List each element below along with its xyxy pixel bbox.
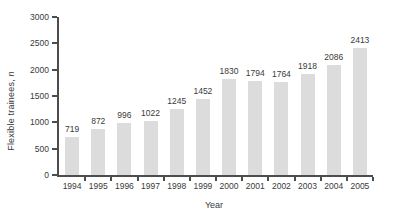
y-axis-tick-label: 500 bbox=[15, 144, 49, 154]
bar bbox=[91, 129, 105, 175]
bar bbox=[65, 137, 79, 175]
y-axis-tick bbox=[52, 69, 57, 71]
y-axis-title-text: Flexible trainees, bbox=[6, 76, 16, 150]
y-axis-tick-label: 1500 bbox=[15, 91, 49, 101]
y-axis-tick bbox=[52, 121, 57, 123]
bar bbox=[274, 82, 288, 175]
y-axis-tick-label: 1000 bbox=[15, 117, 49, 127]
bar-value-label: 1452 bbox=[183, 86, 223, 96]
y-axis-tick bbox=[52, 148, 57, 150]
bar-chart-figure: Flexible trainees, n 0500100015002000250… bbox=[0, 0, 394, 218]
bar-value-label: 1245 bbox=[157, 96, 197, 106]
y-axis-tick bbox=[52, 174, 57, 176]
y-axis-tick bbox=[52, 42, 57, 44]
bar bbox=[196, 99, 210, 175]
x-axis-tick bbox=[84, 177, 86, 181]
plot-area: 0500100015002000250030007191994872199599… bbox=[57, 17, 373, 177]
bar bbox=[144, 121, 158, 175]
bar bbox=[353, 48, 367, 175]
x-axis-tick bbox=[267, 177, 269, 181]
bar bbox=[222, 79, 236, 175]
x-axis-tick bbox=[294, 177, 296, 181]
bar bbox=[327, 65, 341, 175]
x-axis-tick bbox=[163, 177, 165, 181]
bar bbox=[248, 81, 262, 175]
x-axis-tick bbox=[110, 177, 112, 181]
y-axis-tick bbox=[52, 95, 57, 97]
x-axis-tick bbox=[320, 177, 322, 181]
x-axis-tick bbox=[189, 177, 191, 181]
bar bbox=[117, 123, 131, 175]
y-axis-tick-label: 2500 bbox=[15, 38, 49, 48]
y-axis-tick-label: 2000 bbox=[15, 65, 49, 75]
x-axis-title: Year bbox=[57, 200, 371, 210]
y-axis-tick-label: 0 bbox=[15, 170, 49, 180]
x-axis-tick bbox=[372, 177, 374, 181]
x-axis-tick-label: 2005 bbox=[340, 181, 380, 191]
x-axis-tick bbox=[137, 177, 139, 181]
bar-value-label: 2413 bbox=[340, 35, 380, 45]
y-axis-tick bbox=[52, 16, 57, 18]
bar-value-label: 1918 bbox=[288, 61, 328, 71]
x-axis-tick bbox=[215, 177, 217, 181]
bar-value-label: 2086 bbox=[314, 52, 354, 62]
x-axis-tick bbox=[346, 177, 348, 181]
bar bbox=[301, 74, 315, 175]
bar bbox=[170, 109, 184, 175]
x-axis-tick bbox=[241, 177, 243, 181]
y-axis-tick-label: 3000 bbox=[15, 12, 49, 22]
y-axis-title: Flexible trainees, n bbox=[6, 71, 16, 151]
bar-value-label: 1022 bbox=[131, 108, 171, 118]
